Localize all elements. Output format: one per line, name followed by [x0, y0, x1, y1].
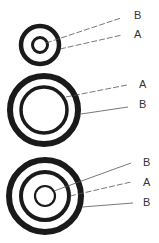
figure-2: A B — [10, 76, 147, 144]
figure-2-inner-ring — [21, 87, 67, 133]
figure-3: B A B — [9, 156, 151, 232]
figure-2-label-a: A — [139, 78, 147, 90]
figure-3-label-b-bottom: B — [143, 196, 150, 208]
figure-3-leader-line-b-bottom — [82, 203, 133, 207]
figure-3-label-a: A — [143, 176, 151, 188]
figure-3-middle-ring — [21, 172, 69, 220]
figure-1-label-b: B — [134, 9, 141, 21]
figure-3-label-b-top: B — [143, 156, 150, 168]
figure-1-leader-line-b — [46, 18, 121, 43]
figure-3-inner-ring — [35, 186, 55, 206]
figure-1: B A — [21, 9, 142, 64]
figure-1-label-a: A — [134, 28, 142, 40]
figure-1-leader-line-a — [60, 35, 122, 49]
figure-2-label-b: B — [139, 98, 146, 110]
figure-2-leader-line-b — [81, 107, 128, 114]
figure-1-inner-ring — [33, 38, 48, 53]
figure-1-outer-ring — [21, 26, 59, 64]
concentric-rings-diagram: B A A B B A B — [0, 0, 159, 243]
